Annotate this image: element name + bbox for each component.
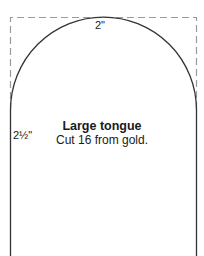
dashed-guide-rect [11,18,197,111]
cut-instruction: Cut 16 from gold. [0,133,204,147]
pattern-title: Large tongue [0,119,204,133]
width-dimension-label: 2" [95,19,105,31]
